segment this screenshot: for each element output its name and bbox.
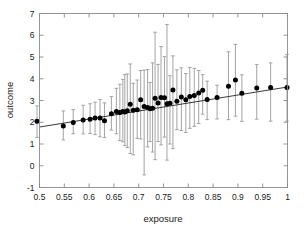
data-point <box>226 84 231 89</box>
data-point <box>192 93 197 98</box>
data-point <box>88 117 93 122</box>
y-tick-label: 1 <box>30 139 35 149</box>
y-tick-label: 2 <box>30 117 35 127</box>
x-tick-label: 0.5 <box>34 192 46 202</box>
data-point <box>183 97 188 102</box>
data-point <box>138 97 143 102</box>
y-tick-label: 5 <box>30 52 35 62</box>
data-point <box>125 108 130 113</box>
x-tick-label: 0.95 <box>254 192 271 202</box>
data-point <box>167 101 172 106</box>
y-tick-label: 0 <box>30 161 35 171</box>
data-point <box>200 88 205 93</box>
data-point-group <box>35 78 290 129</box>
data-point <box>71 120 76 125</box>
data-point <box>35 119 40 124</box>
y-axis-ticks: -101234567 <box>27 9 288 193</box>
y-tick-label: -1 <box>27 183 35 193</box>
x-tick-label: 0.6 <box>83 192 95 202</box>
plot-frame <box>40 14 288 188</box>
data-point <box>215 95 220 100</box>
data-point <box>93 116 98 121</box>
data-point <box>174 99 179 104</box>
x-tick-label: 0.8 <box>182 192 194 202</box>
data-point <box>187 94 192 99</box>
x-tick-label: 0.85 <box>205 192 222 202</box>
x-tick-label: 1 <box>285 192 290 202</box>
y-axis-title: outcome <box>4 82 15 118</box>
data-point <box>61 123 66 128</box>
data-point <box>128 102 133 107</box>
y-tick-label: 4 <box>30 74 35 84</box>
data-point <box>150 106 155 111</box>
chart-container: 0.50.550.60.650.70.750.80.850.90.951 -10… <box>0 0 307 232</box>
x-tick-label: 0.7 <box>133 192 145 202</box>
data-point <box>102 118 107 123</box>
data-point <box>162 95 167 100</box>
data-point <box>268 85 273 90</box>
y-tick-label: 6 <box>30 30 35 40</box>
data-point <box>205 97 210 102</box>
data-point <box>254 86 259 91</box>
data-point <box>81 118 86 123</box>
data-point <box>98 116 103 121</box>
y-tick-label: 3 <box>30 96 35 106</box>
data-point <box>285 85 290 90</box>
data-point <box>179 95 184 100</box>
data-point <box>156 101 161 106</box>
x-tick-label: 0.9 <box>232 192 244 202</box>
regression-fit-line <box>40 87 288 127</box>
fit-line-segment <box>40 87 288 127</box>
outcome-vs-exposure-scatter-plot: 0.50.550.60.650.70.750.80.850.90.951 -10… <box>0 0 307 232</box>
data-point <box>233 78 238 83</box>
x-axis-title: exposure <box>143 213 182 224</box>
data-point <box>170 88 175 93</box>
x-tick-label: 0.65 <box>106 192 123 202</box>
data-point <box>153 96 158 101</box>
data-point <box>135 107 140 112</box>
data-point <box>239 91 244 96</box>
y-tick-label: 7 <box>30 9 35 19</box>
data-point <box>109 111 114 116</box>
x-tick-label: 0.75 <box>155 192 172 202</box>
x-tick-label: 0.55 <box>56 192 73 202</box>
